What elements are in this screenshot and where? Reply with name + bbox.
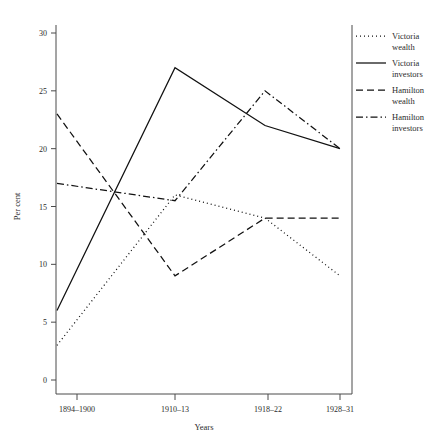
- y-tick-label: 5: [43, 318, 47, 327]
- x-tick-label: 1918–22: [254, 405, 282, 414]
- legend-label-line2: wealth: [392, 96, 415, 106]
- series-line-solid: [57, 68, 340, 311]
- legend-label-line1: Hamilton: [392, 112, 425, 122]
- legend-label-line2: wealth: [392, 42, 415, 52]
- y-axis-title: Per cent: [12, 192, 22, 220]
- y-tick-label: 15: [39, 203, 47, 212]
- line-chart: 051015202530Per cent1894–19001910–131918…: [0, 0, 435, 447]
- legend-label-line1: Victoria: [392, 58, 420, 68]
- series-line-dotted: [57, 195, 340, 345]
- legend-label-line2: investors: [392, 69, 423, 79]
- legend-label-line1: Hamilton: [392, 85, 425, 95]
- x-tick-label: 1894–1900: [59, 405, 95, 414]
- x-tick-label: 1910–13: [161, 405, 189, 414]
- legend-label-line2: investors: [392, 123, 423, 133]
- x-axis-title: Years: [195, 422, 214, 432]
- x-tick-label: 1928–31: [326, 405, 354, 414]
- y-tick-label: 20: [39, 145, 47, 154]
- y-tick-label: 0: [43, 376, 47, 385]
- legend-label-line1: Victoria: [392, 31, 420, 41]
- series-line-dashed: [57, 114, 340, 276]
- y-tick-label: 25: [39, 87, 47, 96]
- chart-figure: 051015202530Per cent1894–19001910–131918…: [0, 0, 435, 447]
- y-tick-label: 10: [39, 260, 47, 269]
- series-line-dashdot: [57, 91, 340, 201]
- plot-frame: [56, 25, 352, 394]
- y-tick-label: 30: [39, 29, 47, 38]
